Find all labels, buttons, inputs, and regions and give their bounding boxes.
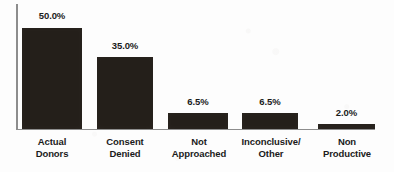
bar-value-consent-denied: 35.0% xyxy=(97,40,153,51)
x-tick-label-line1: Non xyxy=(338,136,356,147)
x-tick-label-inconclusive-other: Inconclusive/ Other xyxy=(228,136,314,160)
x-tick-label-line1: Inconclusive/ xyxy=(242,136,301,147)
x-tick-label-line2: Productive xyxy=(306,148,388,160)
x-tick-label-consent-denied: Consent Denied xyxy=(85,136,165,160)
bar-not-approached[interactable] xyxy=(168,113,228,129)
y-axis-line xyxy=(16,4,18,129)
bar-chart: 50.0% 35.0% 6.5% 6.5% 2.0% Actual Donors… xyxy=(0,0,394,172)
bar-inconclusive-other[interactable] xyxy=(242,113,298,129)
bar-non-productive[interactable] xyxy=(318,124,375,129)
bar-value-inconclusive-other: 6.5% xyxy=(242,96,298,107)
x-tick-label-line1: Actual xyxy=(38,136,66,147)
bar-value-not-approached: 6.5% xyxy=(168,96,228,107)
bar-actual-donors[interactable] xyxy=(22,28,82,129)
x-tick-label-line1: Not xyxy=(191,136,207,147)
x-tick-label-line1: Consent xyxy=(106,136,143,147)
x-tick-label-actual-donors: Actual Donors xyxy=(12,136,92,160)
x-tick-label-line2: Other xyxy=(228,148,314,160)
x-tick-label-line2: Denied xyxy=(85,148,165,160)
x-tick-label-non-productive: Non Productive xyxy=(306,136,388,160)
bar-value-actual-donors: 50.0% xyxy=(22,10,82,21)
bar-consent-denied[interactable] xyxy=(97,57,153,129)
plot-area: 50.0% 35.0% 6.5% 6.5% 2.0% Actual Donors… xyxy=(0,0,394,172)
bar-value-non-productive: 2.0% xyxy=(318,107,375,118)
x-tick-label-line2: Donors xyxy=(12,148,92,160)
